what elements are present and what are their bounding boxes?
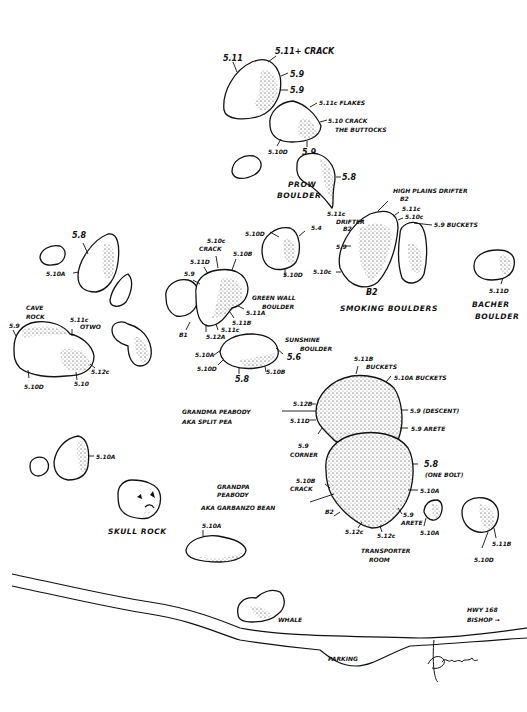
boulder-name: TRANSPORTER bbox=[361, 547, 411, 554]
grade-label: 5.8 bbox=[72, 231, 87, 240]
grade-label: 5.9 bbox=[336, 243, 347, 250]
grade-label: 5.8 bbox=[424, 460, 439, 469]
grade-label: 5.9 ARETE bbox=[411, 425, 446, 432]
boulder-alias: AKA GARBANZO BEAN bbox=[200, 504, 275, 511]
route-label: CORNER bbox=[290, 451, 318, 458]
grade-label: 5.9 bbox=[9, 322, 20, 329]
grade-label: 5.10B bbox=[266, 368, 286, 375]
grade-label: 5.10A BUCKETS bbox=[394, 374, 447, 381]
grade-label: 5.9 bbox=[290, 70, 305, 79]
boulder-cave-rock[interactable] bbox=[13, 322, 151, 380]
artist-signature bbox=[428, 640, 478, 682]
boulder-name: PEABODY bbox=[217, 491, 249, 498]
boulder-name: ROCK bbox=[26, 313, 46, 320]
boulder-name: SMOKING BOULDERS bbox=[340, 304, 438, 313]
boulder-name: BACHER bbox=[472, 300, 510, 309]
grade-label: 5.10B bbox=[233, 250, 253, 257]
grade-label: 5.12c bbox=[345, 528, 364, 535]
route-label: BUCKETS bbox=[366, 363, 397, 370]
road-name: HWY 168 bbox=[467, 606, 498, 613]
grade-label: 5.8 bbox=[235, 375, 250, 384]
boulder-name: GREEN WALL bbox=[252, 294, 296, 301]
boulder-name: SKULL ROCK bbox=[108, 527, 167, 536]
boulder-5-10a-right[interactable] bbox=[424, 500, 442, 526]
boulder-name: BOULDER bbox=[300, 345, 332, 352]
boulder-name: ROOM bbox=[369, 556, 390, 563]
grade-label: 5.10A bbox=[202, 522, 222, 529]
grade-label: 5.11B bbox=[232, 319, 252, 326]
boulder-small[interactable] bbox=[232, 156, 261, 179]
boulder-name: CAVE bbox=[26, 304, 44, 311]
grade-label: 5.11c bbox=[70, 316, 89, 323]
grade-label: 5.10D bbox=[197, 365, 217, 372]
grade-label: 5.10c bbox=[207, 237, 226, 244]
boulder-alias: AKA SPLIT PEA bbox=[181, 418, 232, 425]
boulder-name: GRANDMA PEABODY bbox=[182, 408, 251, 415]
grade-label: OTWO bbox=[80, 323, 101, 330]
grade-label: 5.4 bbox=[311, 224, 322, 231]
grade-label: 5.11 bbox=[223, 54, 243, 63]
grade-label: 5.10D bbox=[24, 383, 44, 390]
boulder-note: THE BUTTOCKS bbox=[335, 126, 387, 133]
grade-label: 5.12c bbox=[91, 368, 110, 375]
grade-label: 5.10A bbox=[420, 529, 440, 536]
grade-label: 5.12A bbox=[206, 333, 226, 340]
grade-label: 5.10D bbox=[474, 556, 494, 563]
boulder-grandpa-peabody[interactable] bbox=[310, 433, 418, 532]
boulder-5-4[interactable] bbox=[262, 228, 305, 277]
grade-label: 5.10D bbox=[283, 271, 303, 278]
boulder-5-10a-left[interactable] bbox=[30, 436, 94, 480]
grade-label: 5.10B bbox=[296, 477, 316, 484]
grade-label: 5.9 (DESCENT) bbox=[410, 407, 459, 414]
grade-label: 5.11D bbox=[190, 258, 210, 265]
route-label: CRACK bbox=[290, 485, 314, 492]
grade-label: 5.11c FLAKES bbox=[319, 99, 365, 106]
grade-label: 5.10A bbox=[96, 453, 116, 460]
grade-label: 5.10 CRACK bbox=[328, 117, 369, 124]
grade-label: 5.11c bbox=[327, 210, 346, 217]
grade-label: 5.9 BUCKETS bbox=[434, 221, 478, 228]
grade-label: 5.11c bbox=[221, 326, 240, 333]
grade-label: 5.11c bbox=[402, 205, 421, 212]
boulder-name: WHALE bbox=[278, 616, 303, 623]
grade-label: 5.10c bbox=[405, 213, 424, 220]
boulder-name: BOULDER bbox=[262, 303, 294, 310]
boulder-label: B2 bbox=[366, 288, 378, 297]
grade-label: 5.9 bbox=[403, 511, 414, 518]
grade-label: 5.11A bbox=[246, 309, 266, 316]
grade-label: 5.11B bbox=[354, 355, 374, 362]
boulder-name: PROW bbox=[288, 180, 316, 189]
topo-map: 5.11 5.11+ CRACK 5.9 5.9 5.11c FLAKES 5.… bbox=[0, 0, 527, 712]
boulder-name: BOULDER bbox=[277, 191, 321, 200]
boulder-name: GRANDPA bbox=[217, 483, 250, 490]
boulder-name: BOULDER bbox=[475, 312, 519, 321]
route-label: (ONE BOLT) bbox=[425, 471, 464, 478]
grade-label: 5.6 bbox=[287, 353, 302, 362]
grade-label: 5.10c bbox=[313, 268, 332, 275]
grade-label: 5.10A bbox=[46, 270, 66, 277]
grade-label: 5.11B bbox=[492, 540, 512, 547]
boulder-bacher[interactable] bbox=[474, 250, 514, 284]
boulder-buttocks[interactable] bbox=[270, 101, 327, 147]
route-label: ARETE bbox=[400, 519, 423, 526]
grade-label: 5.10D bbox=[245, 230, 265, 237]
grade-label: 5.11+ CRACK bbox=[275, 47, 335, 56]
road-direction: BISHOP → bbox=[467, 616, 500, 623]
grade-label: 5.10D bbox=[268, 148, 288, 155]
boulder-skull-rock[interactable] bbox=[118, 480, 161, 519]
grade-label: 5.10A bbox=[195, 351, 215, 358]
boulder-5-10a-bottom[interactable] bbox=[186, 530, 246, 563]
boulder-label: B2 bbox=[325, 508, 334, 515]
boulder-label: B2 bbox=[343, 225, 352, 232]
grade-label: 5.11D bbox=[290, 417, 310, 424]
grade-label: 5.9 bbox=[298, 442, 309, 449]
boulder-name: SUNSHINE bbox=[285, 336, 321, 343]
boulder-label: B2 bbox=[400, 195, 409, 202]
grade-label: 5.12c bbox=[377, 532, 396, 539]
boulder-label: B1 bbox=[179, 331, 188, 338]
parking-label: PARKING bbox=[328, 655, 358, 662]
grade-label: 5.10 bbox=[74, 380, 89, 387]
grade-label: 5.9 bbox=[184, 270, 195, 277]
route-label: HIGH PLAINS DRIFTER bbox=[393, 187, 468, 194]
route-label: DRIFTER bbox=[336, 218, 365, 225]
